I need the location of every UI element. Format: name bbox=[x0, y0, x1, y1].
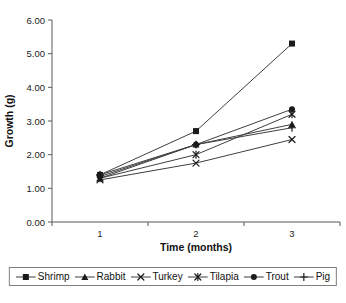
x-axis-title: Time (months) bbox=[160, 241, 232, 253]
x-tick-label: 2 bbox=[193, 228, 198, 239]
y-tick-label: 6.00 bbox=[27, 15, 46, 26]
legend-label-trout: Trout bbox=[266, 271, 289, 282]
triangle-marker-icon bbox=[75, 272, 95, 282]
legend-label-tilapia: Tilapia bbox=[210, 271, 239, 282]
legend-item-trout: Trout bbox=[244, 271, 289, 282]
chart-plot-area: 0.001.002.003.004.005.006.00123 Growth (… bbox=[0, 0, 346, 303]
y-tick-label: 4.00 bbox=[27, 82, 46, 93]
growth-line-chart: 0.001.002.003.004.005.006.00123 Growth (… bbox=[0, 0, 346, 303]
legend-label-rabbit: Rabbit bbox=[97, 271, 126, 282]
x-marker-icon bbox=[130, 272, 150, 282]
x-tick-label: 1 bbox=[97, 228, 102, 239]
legend-item-shrimp: Shrimp bbox=[16, 271, 70, 282]
plus-marker-icon bbox=[294, 272, 314, 282]
y-tick-label: 2.00 bbox=[27, 149, 46, 160]
asterisk-marker-icon bbox=[188, 272, 208, 282]
x-tick-label: 3 bbox=[289, 228, 294, 239]
y-tick-label: 0.00 bbox=[27, 217, 46, 228]
y-tick-label: 3.00 bbox=[27, 116, 46, 127]
square-marker-icon bbox=[16, 272, 36, 282]
legend-label-shrimp: Shrimp bbox=[38, 271, 70, 282]
legend-item-rabbit: Rabbit bbox=[75, 271, 126, 282]
y-tick-label: 5.00 bbox=[27, 48, 46, 59]
legend-label-turkey: Turkey bbox=[152, 271, 182, 282]
y-axis-title: Growth (g) bbox=[3, 94, 15, 147]
circle-marker-icon bbox=[244, 272, 264, 282]
legend-item-turkey: Turkey bbox=[130, 271, 182, 282]
chart-legend: ShrimpRabbitTurkeyTilapiaTroutPig bbox=[9, 267, 337, 286]
legend-item-tilapia: Tilapia bbox=[188, 271, 239, 282]
plot-group: 0.001.002.003.004.005.006.00123 bbox=[27, 15, 341, 240]
legend-item-pig: Pig bbox=[294, 271, 330, 282]
y-tick-label: 1.00 bbox=[27, 183, 46, 194]
legend-label-pig: Pig bbox=[316, 271, 330, 282]
